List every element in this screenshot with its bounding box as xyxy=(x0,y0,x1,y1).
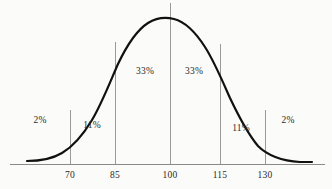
region-label-2-right: 2% xyxy=(281,115,294,125)
region-label-2-left: 2% xyxy=(33,115,46,125)
x-tick-label-130: 130 xyxy=(258,170,273,180)
x-tick-label-70: 70 xyxy=(65,170,75,180)
x-tick-label-85: 85 xyxy=(110,170,120,180)
x-tick-label-115: 115 xyxy=(213,170,228,180)
region-label-11-right: 11% xyxy=(232,123,250,133)
region-label-33-left: 33% xyxy=(136,66,154,76)
normal-distribution-plot xyxy=(0,0,332,189)
bell-curve-figure: 2% 11% 33% 33% 11% 2% 70 85 100 115 130 xyxy=(0,0,332,189)
divider-lines xyxy=(70,3,265,164)
region-label-33-right: 33% xyxy=(185,66,203,76)
x-tick-label-100: 100 xyxy=(163,170,178,180)
region-label-11-left: 11% xyxy=(83,120,101,130)
